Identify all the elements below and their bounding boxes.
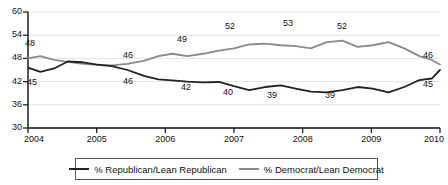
legend-label-democrat: % Democrat/Lean Democrat xyxy=(264,164,384,175)
x-tick-label: 2007 xyxy=(214,134,254,144)
data-label-democrat: 53 xyxy=(277,18,299,28)
legend-label-republican: % Republican/Lean Republican xyxy=(94,164,227,175)
data-label-republican: 42 xyxy=(175,82,197,92)
data-label-democrat: 46 xyxy=(117,50,139,60)
legend-line-swatch-republican xyxy=(69,168,89,170)
x-tick-label: 2004 xyxy=(14,134,54,144)
x-tick-label: 2008 xyxy=(283,134,323,144)
y-tick-label: 30 xyxy=(0,122,22,132)
x-tick-label: 2009 xyxy=(351,134,391,144)
legend-line-swatch-democrat xyxy=(239,168,259,170)
data-label-democrat: 52 xyxy=(219,21,241,31)
series-line-democrat xyxy=(28,41,440,66)
x-tick-label: 2010 xyxy=(414,134,448,144)
data-label-republican: 45 xyxy=(21,77,43,87)
data-label-republican: 46 xyxy=(117,76,139,86)
poll-trend-line-chart: 605448423630 200420052006200720082009201… xyxy=(0,0,448,185)
x-tick-label: 2006 xyxy=(145,134,185,144)
legend-item-democrat[interactable]: % Democrat/Lean Democrat xyxy=(239,164,384,175)
x-tick-label: 2005 xyxy=(77,134,117,144)
data-label-republican: 39 xyxy=(319,90,341,100)
data-label-democrat: 48 xyxy=(19,38,41,48)
y-tick-label: 60 xyxy=(0,6,22,16)
data-label-democrat: 46 xyxy=(417,50,439,60)
chart-legend: % Republican/Lean Republican % Democrat/… xyxy=(75,158,378,180)
y-tick-label: 36 xyxy=(0,99,22,109)
y-tick-label: 42 xyxy=(0,76,22,86)
y-tick-label: 48 xyxy=(0,52,22,62)
legend-item-republican[interactable]: % Republican/Lean Republican xyxy=(69,164,227,175)
data-label-democrat: 49 xyxy=(171,34,193,44)
data-label-republican: 40 xyxy=(217,87,239,97)
data-label-republican: 39 xyxy=(261,90,283,100)
data-label-democrat: 52 xyxy=(331,21,353,31)
data-label-republican: 45 xyxy=(417,79,439,89)
